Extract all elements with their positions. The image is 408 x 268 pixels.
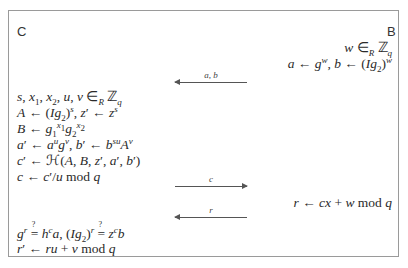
c-step-B: B ← g1x1g2x2 <box>17 121 85 136</box>
c-unblind: r′ ← ru + v mod q <box>17 241 115 256</box>
message-label-c: c <box>175 174 247 184</box>
c-verify: gr =? hca, (Ig2)r =? zcb <box>17 226 125 241</box>
party-b-label: B <box>387 24 396 39</box>
c-step-blind: a′ ← augv, b′ ← bsuAv <box>17 137 133 152</box>
c-step-A: A ← (Ig2)s, z′ ← zs <box>17 105 118 120</box>
c-step-random: s, x1, x2, u, v ∈R ℤq <box>17 89 122 104</box>
b-random-w: w ∈R ℤq <box>344 40 392 55</box>
arrow-left-r <box>175 217 247 218</box>
arrow-right-c <box>175 186 247 187</box>
message-label-ab: a, b <box>175 70 247 80</box>
b-response: r ← cx + w mod q <box>294 195 392 210</box>
message-label-r: r <box>175 205 247 215</box>
b-commitments: a ← gw, b ← (Ig2)w <box>288 56 392 71</box>
c-step-hash: c′ ← ℋ(A, B, z′, a′, b′) <box>17 153 140 168</box>
arrow-left-ab <box>175 82 247 83</box>
c-step-challenge: c ← c′/u mod q <box>17 169 100 184</box>
party-c-label: C <box>17 24 26 39</box>
